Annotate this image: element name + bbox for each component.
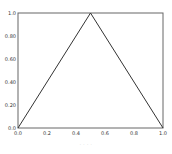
- y-tick-label: 1.0: [8, 10, 16, 16]
- y-tick-label: 0.20: [5, 102, 16, 108]
- y-tick-label: 0.60: [5, 56, 16, 62]
- y-tick-label: 0.40: [5, 79, 16, 85]
- x-tick-label: 0.2: [43, 130, 51, 136]
- x-axis-ticks: 0.00.20.40.60.81.0: [14, 130, 167, 136]
- x-tick-label: 1.0: [159, 130, 167, 136]
- y-tick-label: 0.0: [8, 125, 16, 131]
- x-tick-label: 0.6: [101, 130, 109, 136]
- x-tick-label: 0.8: [130, 130, 138, 136]
- plot-frame: [18, 13, 163, 128]
- y-axis-ticks: 0.00.200.400.600.801.0: [5, 10, 16, 131]
- line-chart: 0.00.20.40.60.81.0 0.00.200.400.600.801.…: [0, 0, 172, 154]
- caption-text: · · · ·: [0, 142, 172, 147]
- x-tick-label: 0.4: [72, 130, 80, 136]
- y-tick-label: 0.80: [5, 33, 16, 39]
